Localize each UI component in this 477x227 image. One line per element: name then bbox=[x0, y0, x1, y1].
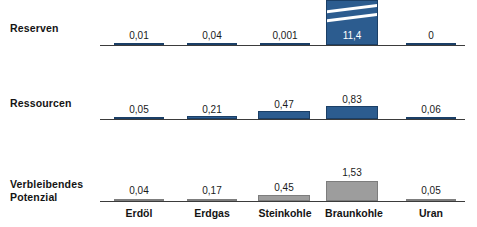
category-label-uran: Uran bbox=[419, 207, 443, 219]
value-label-ressourcen-steinkohle: 0,47 bbox=[274, 99, 293, 110]
category-label-braunkohle: Braunkohle bbox=[325, 207, 383, 219]
panel-label-ressourcen: Ressourcen bbox=[10, 97, 72, 110]
value-label-reserven-erdgas: 0,04 bbox=[202, 30, 221, 41]
bar-ressourcen-braunkohle bbox=[326, 106, 378, 119]
panel-label-reserven: Reserven bbox=[10, 22, 58, 35]
panel-label-potenzial: Verbleibendes Potenzial bbox=[10, 178, 83, 203]
value-label-potenzial-steinkohle: 0,45 bbox=[274, 182, 293, 193]
value-label-ressourcen-braunkohle: 0,83 bbox=[342, 94, 361, 105]
bar-chart-figure: Reserven 0,01 0,04 0,001 11,4 0 Ressourc… bbox=[0, 0, 477, 227]
value-label-potenzial-erdoel: 0,04 bbox=[129, 185, 148, 196]
plot-area-potenzial bbox=[100, 156, 465, 201]
axis-break-mark-upper bbox=[326, 3, 378, 13]
category-label-erdoel: Erdöl bbox=[126, 207, 153, 219]
axis-break-mark-lower bbox=[326, 12, 378, 22]
value-label-reserven-braunkohle: 11,4 bbox=[343, 30, 362, 41]
value-label-potenzial-uran: 0,05 bbox=[421, 185, 440, 196]
bar-ressourcen-steinkohle bbox=[258, 111, 310, 119]
axis-line-reserven bbox=[100, 45, 465, 46]
value-label-reserven-uran: 0 bbox=[428, 30, 434, 41]
value-label-ressourcen-erdgas: 0,21 bbox=[202, 104, 221, 115]
value-label-potenzial-braunkohle: 1,53 bbox=[342, 167, 361, 178]
axis-line-ressourcen bbox=[100, 119, 465, 120]
chart-panel-potenzial: Verbleibendes Potenzial 0,04 0,17 0,45 1… bbox=[0, 156, 477, 206]
category-label-erdgas: Erdgas bbox=[194, 207, 230, 219]
bar-potenzial-braunkohle bbox=[326, 181, 378, 201]
value-label-potenzial-erdgas: 0,17 bbox=[202, 185, 221, 196]
value-label-reserven-erdoel: 0,01 bbox=[129, 30, 148, 41]
value-label-reserven-steinkohle: 0,001 bbox=[272, 30, 297, 41]
chart-panel-reserven: Reserven 0,01 0,04 0,001 11,4 0 bbox=[0, 0, 477, 46]
value-label-ressourcen-erdoel: 0,05 bbox=[129, 104, 148, 115]
category-label-steinkohle: Steinkohle bbox=[258, 207, 311, 219]
chart-panel-ressourcen: Ressourcen 0,05 0,21 0,47 0,83 0,06 bbox=[0, 78, 477, 122]
value-label-ressourcen-uran: 0,06 bbox=[421, 104, 440, 115]
axis-line-potenzial bbox=[100, 201, 465, 202]
